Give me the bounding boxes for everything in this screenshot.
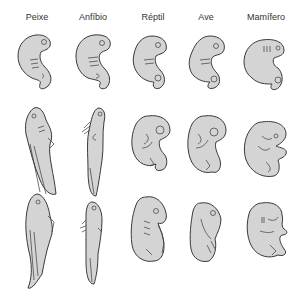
embryo-amphibian-late [78, 198, 108, 288]
embryo-amphibian-middle [76, 104, 112, 200]
embryo-mammal-middle [240, 118, 294, 180]
embryo-bird-early [184, 32, 228, 92]
embryo-amphibian-early [72, 32, 116, 92]
embryo-reptile-late [128, 193, 172, 265]
column-label-fish: Peixe [7, 12, 67, 22]
embryo-bird-middle [184, 112, 230, 180]
embryo-fish-middle [20, 104, 58, 200]
column-label-reptile: Réptil [123, 12, 183, 22]
column-label-bird: Ave [176, 12, 236, 22]
embryo-mammal-early [240, 36, 290, 94]
embryo-bird-late [187, 199, 225, 265]
embryo-reptile-early [128, 32, 172, 92]
embryo-mammal-late [244, 199, 292, 261]
column-label-mammal: Mamífero [236, 12, 296, 22]
column-label-amphibian: Anfíbio [63, 12, 123, 22]
embryo-fish-early [14, 32, 58, 92]
embryo-fish-late [14, 190, 56, 290]
embryo-reptile-middle [128, 112, 174, 176]
